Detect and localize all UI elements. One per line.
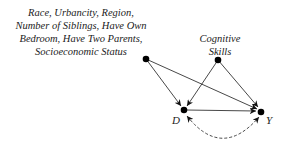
edge-cognitive-to-d	[187, 60, 218, 106]
node-cognitive	[215, 57, 222, 64]
node-y	[258, 109, 265, 116]
edge-d-y-bidirected	[187, 116, 259, 138]
dag-diagram	[0, 0, 286, 149]
node-confounders	[143, 56, 150, 63]
y-label: Y	[266, 114, 272, 126]
edge-confounders-to-d	[146, 59, 181, 106]
node-d	[181, 107, 188, 114]
d-label: D	[172, 114, 180, 126]
edge-d-to-y	[186, 110, 256, 111]
